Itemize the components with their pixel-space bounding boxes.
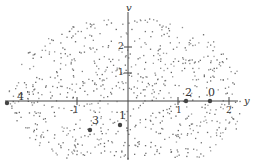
tick-label-v-1: 1: [118, 68, 124, 77]
tick-label-y-neg1: -1: [70, 106, 79, 115]
labeled-point: [208, 99, 212, 103]
point-label-1: 1: [119, 110, 126, 121]
tick-label-y-1: 1: [176, 106, 182, 115]
point-label-2: 2: [185, 87, 192, 98]
point-label-3: 3: [92, 115, 99, 126]
point-label-0: 0: [208, 87, 215, 98]
labeled-point: [184, 99, 188, 103]
tick-label-v-2: 2: [118, 42, 124, 51]
tick-label-y-2: 2: [226, 106, 232, 115]
scatter-dots: [9, 18, 241, 159]
diagram-canvas: [0, 0, 264, 166]
labeled-point: [88, 128, 92, 132]
vertical-axis-label: v: [126, 3, 132, 13]
point-label-4: 4: [17, 91, 24, 102]
scatter-diagram: v y 2 1 -1 1 2 4 3 1 2 0: [0, 0, 264, 166]
labeled-point: [5, 101, 9, 105]
horizontal-axis-label: y: [244, 96, 250, 106]
labeled-point: [118, 123, 122, 127]
